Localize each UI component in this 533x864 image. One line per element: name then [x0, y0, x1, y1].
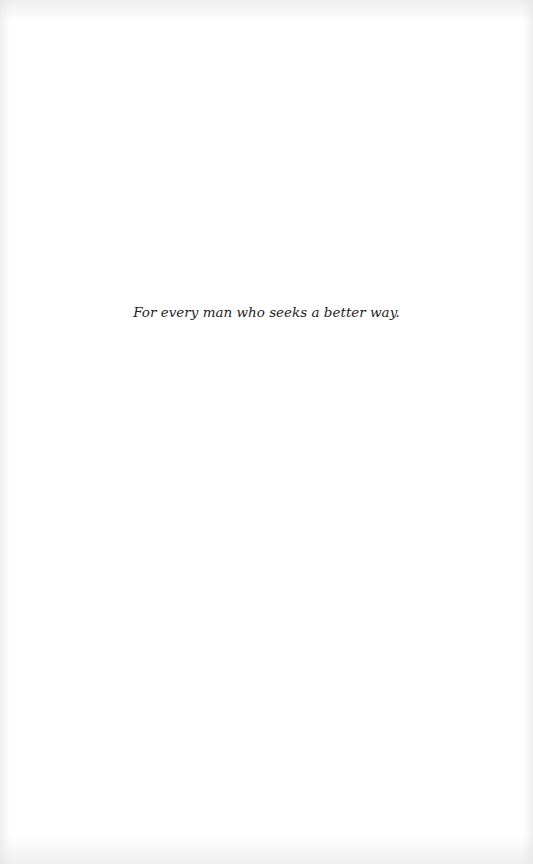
page-edge-left — [0, 0, 10, 864]
book-page: For every man who seeks a better way. — [0, 0, 533, 864]
page-edge-bottom — [0, 834, 533, 864]
page-edge-right — [523, 0, 533, 864]
dedication-text: For every man who seeks a better way. — [0, 303, 533, 321]
page-edge-top — [0, 0, 533, 22]
